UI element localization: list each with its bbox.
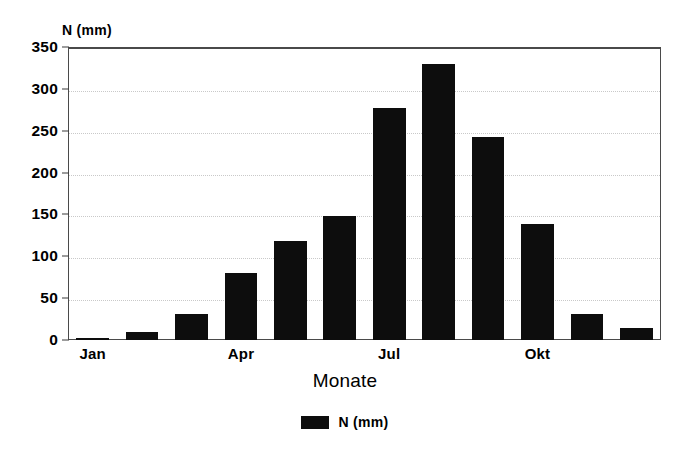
x-axis-title: Monate [0,370,690,392]
legend-label: N (mm) [338,414,388,430]
legend: N (mm) [0,414,690,430]
y-tick-mark [62,88,69,89]
x-tick-label: Jul [378,345,400,362]
bar-chart: N (mm) 050100150200250300350 JanAprJulOk… [0,0,690,464]
y-axis-title: N (mm) [62,22,112,38]
y-tick-label: 200 [6,164,58,182]
y-tick-label: 350 [6,38,58,56]
gridline [69,258,660,259]
y-tick-label: 150 [6,205,58,223]
gridline [69,175,660,176]
gridline [69,91,660,92]
y-tick-mark [62,47,69,48]
gridline [69,216,660,217]
gridline [69,133,660,134]
y-tick-label: 100 [6,247,58,265]
x-tick-label: Apr [228,345,254,362]
y-tick-mark [62,298,69,299]
gridline [69,300,660,301]
x-tick-label: Jan [79,345,105,362]
y-tick-mark [62,130,69,131]
y-tick-mark [62,256,69,257]
y-tick-mark [62,340,69,341]
y-tick-mark [62,172,69,173]
plot-area [68,47,661,340]
y-tick-label: 250 [6,122,58,140]
legend-swatch-icon [301,416,329,429]
y-tick-label: 300 [6,80,58,98]
y-tick-label: 0 [6,331,58,349]
y-tick-mark [62,214,69,215]
y-tick-label: 50 [6,289,58,307]
x-tick-label: Okt [525,345,551,362]
